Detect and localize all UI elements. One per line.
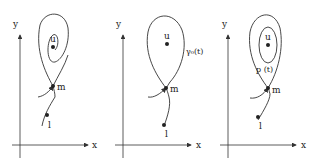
homoclinic-loop [147,16,184,88]
y-axis-label: y [221,19,228,29]
label-l: l [48,120,51,130]
axes [12,35,88,158]
point-m [164,86,168,90]
label-m: m [170,84,179,94]
phase-portrait-panel-1: y x u m l [0,0,106,163]
label-m: m [57,82,66,92]
label-m: m [272,85,281,95]
label-u: u [265,32,271,42]
x-axis-label: x [301,140,306,150]
point-l [256,115,260,119]
y-axis-label: y [115,19,122,29]
point-l [162,123,166,127]
curve-label-gamma0: γ₀(t) [186,47,203,56]
point-u [266,43,270,47]
point-m [51,84,55,88]
point-u [165,42,169,46]
incoming-trajectory [250,88,268,98]
point-l [45,113,49,117]
label-u: u [164,31,170,41]
incoming-trajectory [38,86,53,97]
x-axis-label: x [92,140,97,150]
incoming-trajectory [148,88,166,97]
label-l: l [259,121,262,131]
curve-label-p: p (t) [256,65,273,74]
point-u [51,45,55,49]
y-axis-label: y [12,19,19,29]
x-axis-label: x [196,140,201,150]
spiral-trajectory [39,14,69,86]
label-l: l [165,129,168,139]
point-m [266,86,270,90]
trajectory-l-to-m [164,88,170,126]
phase-portrait-panel-2: y x u m l γ₀(t) [106,0,212,163]
label-u: u [50,34,56,44]
phase-portrait-panel-3: y x u m l p (t) [212,0,318,163]
